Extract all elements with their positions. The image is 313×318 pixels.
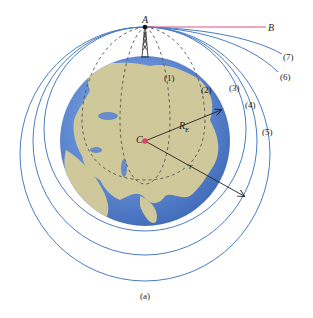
orbit-diagram: A B C RE r (1) (2) (3) (4) (5) (6) (7) (…	[0, 0, 313, 318]
tower-icon	[141, 28, 149, 57]
label-trajectory-1: (1)	[164, 73, 175, 83]
label-c: C	[136, 134, 143, 145]
label-trajectory-5: (5)	[262, 127, 273, 137]
label-trajectory-4: (4)	[245, 100, 256, 110]
label-a: A	[141, 14, 149, 25]
label-trajectory-2: (2)	[201, 85, 212, 95]
point-a-dot	[143, 25, 148, 30]
label-r: r	[189, 161, 193, 171]
label-b: B	[268, 22, 274, 33]
label-trajectory-7: (7)	[283, 52, 294, 62]
figure-caption: (a)	[140, 291, 150, 301]
center-dot	[142, 138, 148, 144]
label-trajectory-6: (6)	[280, 72, 291, 82]
trajectory-7	[145, 27, 282, 54]
label-trajectory-3: (3)	[229, 83, 240, 93]
